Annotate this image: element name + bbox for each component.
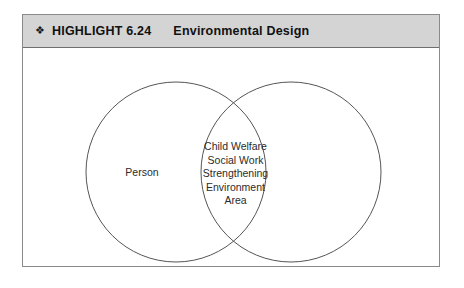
venn-diagram: Person Child Welfare Social Work Strengt… xyxy=(23,48,439,267)
intersection-line: Strengthening xyxy=(178,167,293,181)
left-circle-label: Person xyxy=(97,166,187,180)
figure-title: Environmental Design xyxy=(173,24,309,38)
figure-frame: ❖ HIGHLIGHT 6.24 Environmental Design Pe… xyxy=(22,14,440,267)
intersection-line: Child Welfare xyxy=(178,140,293,154)
highlight-label: HIGHLIGHT 6.24 xyxy=(52,24,151,38)
intersection-line: Environment xyxy=(178,181,293,195)
figure-header: ❖ HIGHLIGHT 6.24 Environmental Design xyxy=(23,15,439,48)
intersection-label: Child Welfare Social Work Strengthening … xyxy=(178,140,293,208)
floret-bullet-icon: ❖ xyxy=(35,25,45,36)
intersection-line: Social Work xyxy=(178,154,293,168)
intersection-line: Area xyxy=(178,194,293,208)
